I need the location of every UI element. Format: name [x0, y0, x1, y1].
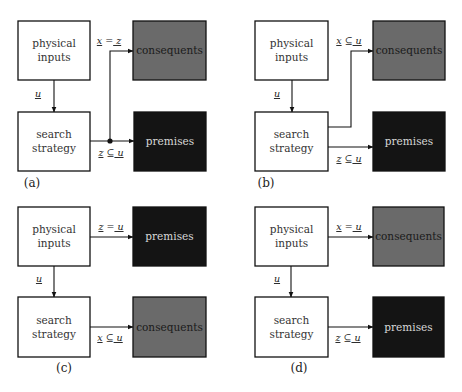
edge-label-inputs-to-premises: z = u	[97, 221, 123, 232]
box-search-strategy: searchstrategy	[255, 112, 328, 171]
panel-b: ux ⊆ uz ⊆ uphysicalinputssearchstrategyc…	[255, 21, 445, 190]
box-search-strategy: searchstrategy	[255, 297, 328, 357]
panels-layer: uz ⊆ ux = zphysicalinputssearchstrategyc…	[18, 21, 445, 375]
edge-label-search-to-premises: z ⊆ u	[334, 332, 360, 343]
junction-dot	[107, 138, 112, 143]
edge-junction-to-consequents	[110, 51, 133, 141]
panel-label-a: (a)	[24, 176, 41, 190]
edge-label-search-to-premises: z ⊆ u	[97, 147, 123, 158]
box-physical-inputs: physicalinputs	[18, 21, 90, 80]
box-label-premises: premises	[384, 321, 432, 333]
edge-label-search-to-consequents: x ⊆ u	[97, 332, 122, 343]
box-label-physical-inputs: physical	[270, 223, 314, 235]
box-label-consequents: consequents	[136, 44, 203, 56]
edge-search-to-consequents	[328, 51, 373, 127]
box-search-strategy: searchstrategy	[18, 297, 90, 357]
panel-label-c: (c)	[56, 361, 72, 375]
edge-label-inputs-to-consequents: x = u	[336, 221, 361, 232]
box-label-physical-inputs: physical	[270, 37, 314, 49]
box-label-search-strategy: strategy	[270, 328, 314, 340]
box-consequents: consequents	[133, 21, 206, 80]
box-label-premises: premises	[385, 135, 433, 147]
box-label-consequents: consequents	[376, 44, 443, 56]
box-consequents: consequents	[373, 207, 444, 266]
box-label-physical-inputs: physical	[32, 37, 76, 49]
box-label-premises: premises	[145, 230, 193, 242]
edge-label-search-to-consequents: x ⊆ u	[336, 35, 361, 46]
box-premises: premises	[133, 207, 206, 266]
panel-a: uz ⊆ ux = zphysicalinputssearchstrategyc…	[18, 21, 206, 190]
edge-label-inputs-to-search: u	[274, 88, 280, 99]
box-label-search-strategy: strategy	[32, 328, 76, 340]
box-label-search-strategy: search	[274, 128, 310, 140]
box-label-search-strategy: search	[36, 314, 72, 326]
edge-label-search-to-premises: z ⊆ u	[335, 153, 361, 164]
box-search-strategy: searchstrategy	[18, 112, 90, 171]
box-label-consequents: consequents	[375, 230, 442, 242]
box-label-search-strategy: strategy	[270, 142, 314, 154]
box-premises: premises	[373, 297, 444, 357]
diagram-svg: uz ⊆ ux = zphysicalinputssearchstrategyc…	[0, 0, 462, 392]
box-consequents: consequents	[373, 21, 445, 80]
box-physical-inputs: physicalinputs	[18, 207, 90, 266]
edge-label-inputs-to-search: u	[36, 273, 42, 284]
edge-label-inputs-to-search: u	[35, 88, 41, 99]
box-label-physical-inputs: inputs	[37, 51, 70, 63]
box-label-physical-inputs: inputs	[275, 51, 308, 63]
box-physical-inputs: physicalinputs	[255, 21, 328, 80]
box-label-physical-inputs: inputs	[37, 237, 70, 249]
panel-c: uz = ux ⊆ uphysicalinputssearchstrategyp…	[18, 207, 206, 375]
panel-d: ux = uz ⊆ uphysicalinputssearchstrategyc…	[255, 207, 444, 375]
box-physical-inputs: physicalinputs	[255, 207, 328, 266]
edge-label-junction-to-consequents: x = z	[97, 35, 122, 46]
box-label-premises: premises	[146, 135, 194, 147]
box-label-search-strategy: search	[274, 314, 310, 326]
box-label-search-strategy: strategy	[32, 142, 76, 154]
edge-label-inputs-to-search: u	[274, 273, 280, 284]
box-consequents: consequents	[133, 297, 206, 357]
figure-canvas: uz ⊆ ux = zphysicalinputssearchstrategyc…	[0, 0, 462, 392]
panel-label-d: (d)	[290, 361, 307, 375]
box-label-physical-inputs: physical	[32, 223, 76, 235]
box-premises: premises	[134, 112, 206, 171]
box-label-physical-inputs: inputs	[275, 237, 308, 249]
box-label-consequents: consequents	[136, 321, 203, 333]
panel-label-b: (b)	[257, 176, 274, 190]
box-label-search-strategy: search	[36, 128, 72, 140]
box-premises: premises	[373, 112, 445, 171]
